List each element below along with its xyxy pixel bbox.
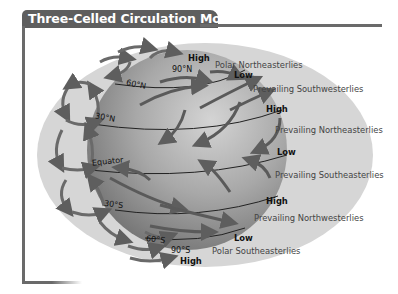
wind-label-prevailing-southwesterlies: Prevailing Southwesterlies [253,84,363,94]
wind-label-polar-southeasterlies: Polar Southeasterlies [212,246,300,256]
pressure-high-north-pole: High [188,53,210,63]
pressure-high-south-pole: High [180,256,202,266]
wind-label-prevailing-northeasterlies: Prevailing Northeasterlies [275,125,383,135]
latitude-label-90s: 90°S [171,246,190,255]
pressure-low-60n: Low [234,70,253,80]
wind-label-prevailing-northwesterlies: Prevailing Northwesterlies [254,213,364,223]
pressure-low-equator: Low [277,147,296,157]
circulation-diagram [0,0,398,294]
pressure-low-60s: Low [234,233,253,243]
wind-label-polar-northeasterlies: Polar Northeasterlies [215,60,303,70]
latitude-label-90n: 90°N [172,65,192,74]
pressure-high-30s: High [266,196,288,206]
latitude-label-60s: 60°S [146,234,166,245]
pressure-high-30n: High [266,104,288,114]
wind-label-prevailing-southeasterlies: Prevailing Southeasterlies [275,170,384,180]
